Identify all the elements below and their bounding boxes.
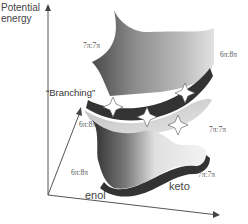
x-axis-arrowhead <box>213 211 220 218</box>
enol-label: enol <box>85 189 106 201</box>
state-label-upper-right: 6π:8π <box>220 50 237 59</box>
branching-label: “Branching” <box>46 87 95 98</box>
depth-axis-arrowhead <box>76 107 82 116</box>
y-axis-label: Potential energy <box>1 2 40 24</box>
potential-energy-surface-diagram: Potential energy “Branching” 7π:7π 6π:8π… <box>0 0 248 224</box>
y-axis-label-line2: energy <box>1 13 40 24</box>
keto-label: keto <box>169 180 190 192</box>
x-axis <box>48 195 218 215</box>
y-axis-label-line1: Potential <box>1 2 40 13</box>
state-label-upper-left: 7π:7π <box>83 41 100 50</box>
surface-figure <box>0 0 248 224</box>
y-axis-arrowhead <box>45 4 51 11</box>
state-label-lower-right: 7π:7π <box>198 170 215 179</box>
depth-axis <box>48 112 80 195</box>
state-label-lower-left: 6π:8π <box>71 168 88 177</box>
state-label-middle-left: 6π:8π <box>79 120 96 129</box>
state-label-middle-right: 7π:7π <box>209 125 226 134</box>
